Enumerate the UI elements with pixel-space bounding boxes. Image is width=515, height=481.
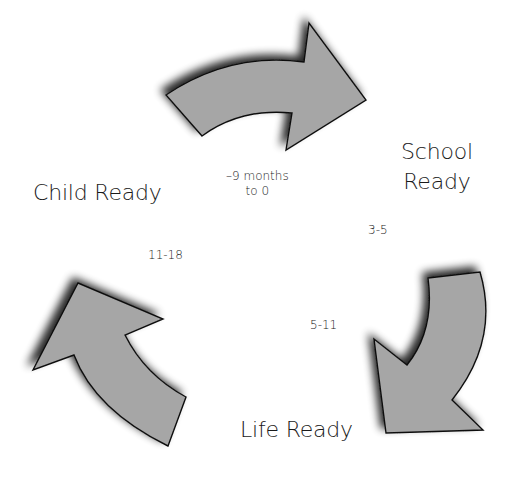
age-prenatal-line1: –9 months — [226, 169, 289, 184]
age-middle: 5-11 — [310, 318, 337, 332]
stage-child-ready: Child Ready — [33, 180, 162, 205]
arrow-left-icon — [33, 283, 186, 446]
age-teen: 11-18 — [148, 248, 183, 262]
stage-life-ready: Life Ready — [240, 417, 353, 442]
arrow-top-icon — [166, 23, 366, 150]
age-prenatal-line2: to 0 — [226, 184, 289, 199]
arrow-right-icon — [374, 272, 486, 433]
stage-school-ready-line1: School — [401, 137, 473, 167]
age-prenatal: –9 months to 0 — [226, 169, 289, 199]
cycle-arrows — [0, 0, 515, 481]
stage-school-ready: School Ready — [401, 137, 473, 197]
stage-school-ready-line2: Ready — [401, 167, 473, 197]
age-early: 3-5 — [368, 223, 388, 237]
